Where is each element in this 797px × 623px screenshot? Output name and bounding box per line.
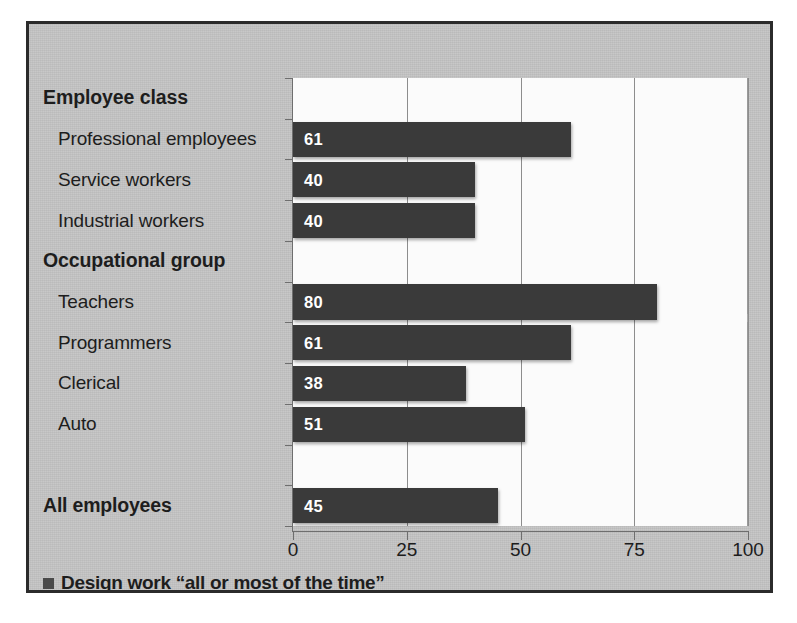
bar-value-label: 61 (304, 334, 323, 351)
y-tick-4 (285, 241, 293, 242)
bar-clerical: 38 (293, 366, 466, 401)
plot-area: 6140408061385145 (293, 78, 748, 526)
bar-professional-employees: 61 (293, 122, 571, 157)
bar-auto: 51 (293, 407, 525, 442)
category-label-auto: Auto (58, 414, 304, 433)
gridline-100 (748, 78, 749, 526)
x-axis-label-0: 0 (263, 540, 323, 559)
y-tick-6 (285, 322, 293, 323)
y-tick-0 (285, 78, 293, 79)
x-axis-label-75: 75 (604, 540, 664, 559)
y-tick-7 (285, 363, 293, 364)
scanned-page: Employee classProfessional employeesServ… (0, 0, 797, 623)
bar-value-label: 40 (304, 212, 323, 229)
bar-value-label: 51 (304, 416, 323, 433)
x-axis-label-50: 50 (491, 540, 551, 559)
category-label-teachers: Teachers (58, 292, 304, 311)
bar-value-label: 45 (304, 497, 323, 514)
y-tick-2 (285, 159, 293, 160)
chart-legend: Design work “all or most of the time” (43, 572, 385, 593)
legend-label: Design work “all or most of the time” (61, 572, 385, 593)
category-axis-line (292, 78, 293, 532)
category-label-service-workers: Service workers (58, 170, 304, 189)
chart-figure-frame: Employee classProfessional employeesServ… (26, 21, 773, 593)
category-label-industrial-workers: Industrial workers (58, 211, 304, 230)
category-label-programmers: Programmers (58, 333, 304, 352)
bar-programmers: 61 (293, 325, 571, 360)
category-label-all-employees: All employees (43, 496, 289, 516)
y-tick-5 (285, 282, 293, 283)
y-tick-10 (285, 485, 293, 486)
bar-value-label: 38 (304, 375, 323, 392)
y-tick-1 (285, 119, 293, 120)
y-tick-3 (285, 200, 293, 201)
bar-service-workers: 40 (293, 162, 475, 197)
bar-teachers: 80 (293, 284, 657, 319)
y-tick-9 (285, 445, 293, 446)
category-label-occupational-group: Occupational group (43, 251, 289, 271)
y-tick-end (285, 526, 293, 527)
category-label-clerical: Clerical (58, 373, 304, 392)
category-label-employee-class: Employee class (43, 88, 289, 108)
bar-value-label: 61 (304, 131, 323, 148)
y-tick-8 (285, 404, 293, 405)
bar-all-employees: 45 (293, 488, 498, 523)
bar-industrial-workers: 40 (293, 203, 475, 238)
x-axis-label-25: 25 (377, 540, 437, 559)
bar-value-label: 80 (304, 294, 323, 311)
category-label-column: Employee classProfessional employeesServ… (29, 24, 291, 590)
legend-swatch-icon (43, 578, 54, 589)
category-label-professional-employees: Professional employees (58, 129, 304, 148)
x-axis-label-100: 100 (718, 540, 773, 559)
bar-value-label: 40 (304, 172, 323, 189)
